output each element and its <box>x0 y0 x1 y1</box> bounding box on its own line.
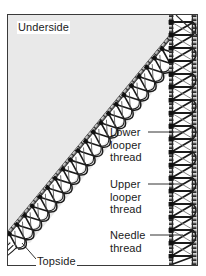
leader-topside <box>22 243 36 259</box>
label-lower-looper-thread: Lower looper thread <box>110 126 142 164</box>
label-needle-line2: thread <box>110 242 145 255</box>
label-upper-looper-line1: Upper <box>110 178 142 191</box>
stitch-diagram-figure: Underside Topside Lower looper thread Up… <box>0 0 206 276</box>
vertical-stitch-band <box>169 15 197 265</box>
label-lower-looper-line3: thread <box>110 151 142 164</box>
label-lower-looper-line2: looper <box>110 139 142 152</box>
stitch-illustration <box>0 0 206 276</box>
label-needle-thread: Needle thread <box>110 229 145 254</box>
label-topside: Topside <box>36 255 77 268</box>
label-upper-looper-line3: thread <box>110 203 142 216</box>
label-lower-looper-line1: Lower <box>110 126 142 139</box>
label-upper-looper-thread: Upper looper thread <box>110 178 142 216</box>
label-underside: Underside <box>17 21 70 34</box>
label-upper-looper-line2: looper <box>110 191 142 204</box>
label-needle-line1: Needle <box>110 229 145 242</box>
